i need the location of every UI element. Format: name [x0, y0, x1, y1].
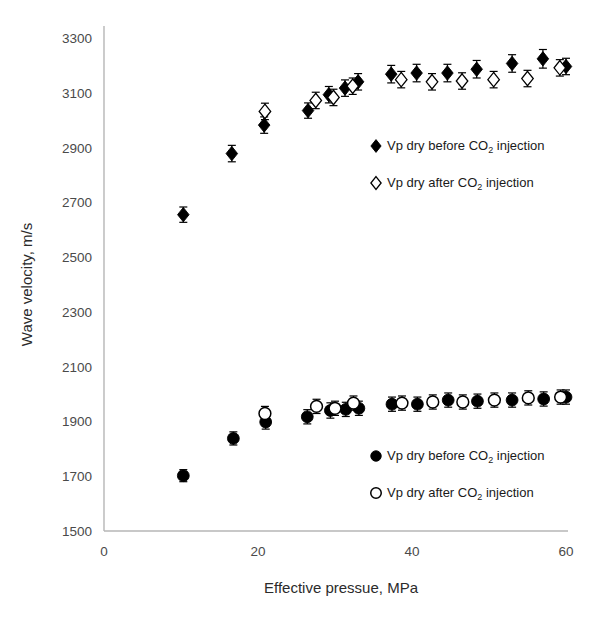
- legend-label: Vp dry after CO2 injection: [387, 485, 534, 502]
- marker-open-circle: [329, 402, 341, 414]
- x-tick-label: 40: [404, 544, 419, 559]
- data-point: [259, 406, 271, 420]
- legend-label: Vp dry before CO2 injection: [387, 138, 544, 155]
- marker-open-circle: [555, 391, 567, 403]
- marker-open-circle: [457, 396, 469, 408]
- marker-open-circle: [522, 392, 534, 404]
- scatter-plot-svg: 1500170019002100230025002700290031003300…: [0, 0, 594, 618]
- legend-label: Vp dry before CO2 injection: [387, 448, 544, 465]
- y-tick-label: 1900: [62, 414, 92, 429]
- data-point: [311, 399, 323, 413]
- y-tick-label: 2300: [62, 305, 92, 320]
- legend-marker-filled-circle: [371, 451, 381, 461]
- y-tick-label: 2700: [62, 195, 92, 210]
- legend-marker-open-circle: [371, 488, 381, 498]
- data-point: [457, 395, 469, 409]
- x-tick-label: 20: [250, 544, 265, 559]
- y-tick-label: 3100: [62, 86, 92, 101]
- marker-filled-circle: [538, 393, 550, 405]
- y-tick-label: 1500: [62, 524, 92, 539]
- marker-open-circle: [488, 394, 500, 406]
- y-tick-label: 2100: [62, 360, 92, 375]
- data-point: [396, 396, 408, 410]
- marker-open-circle: [427, 396, 439, 408]
- data-point: [329, 401, 341, 415]
- y-tick-label: 2900: [62, 141, 92, 156]
- legend-label: Vp dry after CO2 injection: [387, 175, 534, 192]
- y-tick-label: 2500: [62, 250, 92, 265]
- marker-filled-circle: [177, 470, 189, 482]
- data-point: [348, 396, 360, 410]
- marker-filled-circle: [472, 395, 484, 407]
- legend-entry[interactable]: Vp dry after CO2 injection: [371, 485, 534, 502]
- marker-filled-circle: [506, 394, 518, 406]
- data-point: [522, 391, 534, 405]
- marker-filled-circle: [411, 398, 423, 410]
- marker-open-circle: [311, 400, 323, 412]
- y-tick-label: 1700: [62, 469, 92, 484]
- data-point: [555, 390, 567, 404]
- data-point: [177, 470, 189, 482]
- x-tick-label: 60: [558, 544, 573, 559]
- marker-filled-circle: [227, 433, 239, 445]
- x-axis-title: Effective pressue, MPa: [264, 579, 419, 596]
- marker-open-circle: [348, 397, 360, 409]
- data-point: [427, 395, 439, 409]
- marker-open-circle: [259, 408, 271, 420]
- legend-entry[interactable]: Vp dry before CO2 injection: [371, 138, 545, 155]
- legend-entry[interactable]: Vp dry after CO2 injection: [371, 175, 534, 192]
- chart-figure: 1500170019002100230025002700290031003300…: [0, 0, 594, 618]
- y-tick-label: 3300: [62, 31, 92, 46]
- y-axis-title: Wave velocity, m/s: [18, 223, 35, 346]
- x-tick-label: 0: [100, 544, 108, 559]
- data-point: [488, 393, 500, 407]
- marker-filled-circle: [442, 394, 454, 406]
- data-point: [227, 432, 239, 445]
- legend-entry[interactable]: Vp dry before CO2 injection: [371, 448, 545, 465]
- marker-filled-circle: [301, 411, 313, 423]
- marker-open-circle: [396, 397, 408, 409]
